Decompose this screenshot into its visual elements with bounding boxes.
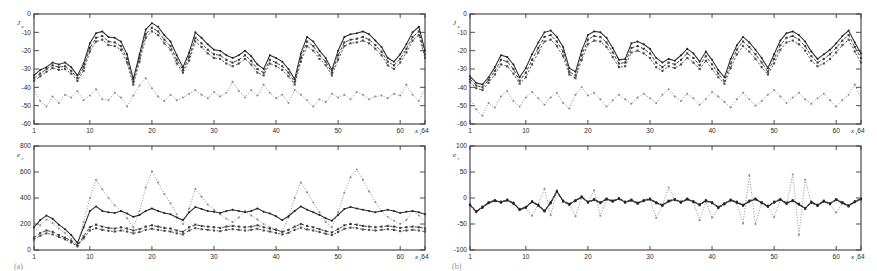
series-marker — [381, 210, 383, 212]
series-marker — [754, 49, 756, 51]
series-marker — [785, 202, 787, 204]
series-marker — [300, 205, 302, 207]
series-marker — [201, 37, 203, 39]
series-marker — [742, 45, 744, 47]
series-marker — [120, 96, 122, 98]
y-tick-label: 100 — [456, 142, 467, 149]
series-marker — [711, 91, 713, 93]
series-marker — [854, 46, 856, 48]
series-marker — [306, 225, 308, 227]
series-marker — [754, 197, 756, 199]
series-marker — [723, 203, 725, 205]
series-marker — [798, 39, 800, 41]
series-marker — [810, 103, 812, 105]
series-marker — [89, 95, 91, 97]
series-marker — [418, 34, 420, 36]
series-marker — [643, 200, 645, 202]
series-marker — [58, 66, 60, 68]
series-marker — [618, 66, 620, 68]
y-tick-label: 600 — [20, 168, 31, 175]
series-marker — [399, 230, 401, 232]
series-marker — [405, 51, 407, 53]
series-marker — [213, 49, 215, 51]
series-marker — [848, 205, 850, 207]
series-marker — [250, 215, 252, 217]
series-marker — [201, 208, 203, 210]
y-tick-label: 50 — [460, 168, 468, 175]
x-axis-label: x — [414, 253, 419, 261]
series-marker — [238, 62, 240, 64]
series-marker — [64, 232, 66, 234]
series-marker — [854, 201, 856, 203]
series-marker — [76, 80, 78, 82]
series-marker — [624, 65, 626, 67]
y-axis-label: J — [17, 19, 21, 27]
series-marker — [132, 84, 134, 86]
series-marker — [506, 90, 508, 92]
series-marker — [424, 88, 426, 90]
series-marker — [405, 211, 407, 213]
series-marker — [829, 203, 831, 205]
series-marker — [306, 191, 308, 193]
series-marker — [779, 40, 781, 42]
series-marker — [860, 52, 862, 54]
series-marker — [39, 69, 41, 71]
series-marker — [810, 51, 812, 53]
series-marker — [52, 233, 54, 235]
series-marker — [630, 199, 632, 201]
series-marker — [151, 170, 153, 172]
series-marker — [312, 50, 314, 52]
series-marker — [624, 62, 626, 64]
series-marker — [145, 33, 147, 35]
series-marker — [393, 64, 395, 66]
series-marker — [562, 51, 564, 53]
series-marker — [469, 204, 471, 206]
x-tick-label: 10 — [522, 127, 530, 134]
series-marker — [275, 232, 277, 234]
series-marker — [481, 86, 483, 88]
series-marker — [151, 27, 153, 29]
series-marker — [575, 94, 577, 96]
series-marker — [362, 179, 364, 181]
series-marker — [213, 226, 215, 228]
series-marker — [83, 63, 85, 65]
series-marker — [699, 68, 701, 70]
series-marker — [89, 42, 91, 44]
series-marker — [742, 40, 744, 42]
series-marker — [213, 57, 215, 59]
series-marker — [95, 179, 97, 181]
series-marker — [287, 229, 289, 231]
series-marker — [754, 53, 756, 55]
y-tick-label: -30 — [457, 65, 467, 72]
series-marker — [337, 231, 339, 233]
series-marker — [568, 73, 570, 75]
series-marker — [543, 210, 545, 212]
series-marker — [95, 88, 97, 90]
series-marker — [70, 241, 72, 243]
series-marker — [139, 53, 141, 55]
series-marker — [45, 232, 47, 234]
series-marker — [618, 59, 620, 61]
series-marker — [692, 57, 694, 59]
x-axis-label: x — [414, 127, 419, 135]
y-tick-label: -60 — [21, 120, 31, 127]
series-marker — [804, 98, 806, 100]
series-marker — [556, 190, 558, 192]
series-marker — [506, 61, 508, 63]
x-axis-label-subscript: i — [420, 131, 422, 136]
series-marker — [337, 211, 339, 213]
x-axis-label-subscript: i — [420, 257, 422, 262]
series-marker — [64, 68, 66, 70]
series-line — [470, 31, 861, 85]
series-line — [34, 23, 425, 79]
series-marker — [500, 96, 502, 98]
series-marker — [810, 201, 812, 203]
series-marker — [699, 204, 701, 206]
series-marker — [325, 57, 327, 59]
series-marker — [761, 202, 763, 204]
series-marker — [337, 50, 339, 52]
series-marker — [374, 211, 376, 213]
series-marker — [70, 240, 72, 242]
series-marker — [287, 72, 289, 74]
series-marker — [792, 35, 794, 37]
